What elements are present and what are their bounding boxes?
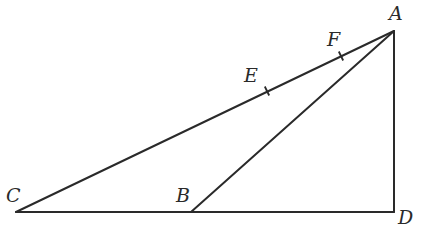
point-label-a: A	[387, 2, 403, 24]
point-label-d: D	[397, 206, 413, 228]
point-label-b: B	[175, 184, 190, 206]
segment-ca	[16, 31, 394, 212]
segment-ba	[191, 31, 394, 212]
geometry-diagram: A F E C B D	[0, 0, 430, 244]
point-label-e: E	[243, 64, 258, 86]
point-label-f: F	[326, 28, 341, 50]
point-label-c: C	[6, 184, 21, 206]
